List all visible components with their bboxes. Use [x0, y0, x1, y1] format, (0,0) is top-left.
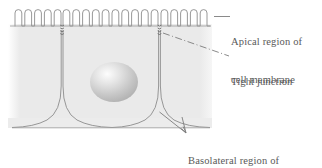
label-tight-junction-line1: Tight junction	[231, 76, 293, 89]
label-basolateral-region: Basolateral region of cell membrane	[188, 130, 279, 168]
epithelial-cell-diagram: Apical region of cell membrane Tight jun…	[0, 0, 322, 168]
nucleus	[90, 62, 138, 102]
label-apical-line1: Apical region of	[231, 36, 302, 49]
label-tight-junction: Tight junction	[231, 51, 293, 114]
label-basolateral-line1: Basolateral region of	[188, 155, 279, 168]
microvilli	[15, 10, 210, 26]
